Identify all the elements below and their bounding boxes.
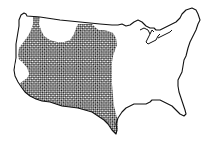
map-container: Contiguous United States — shaded range … xyxy=(0,0,212,144)
us-range-map xyxy=(0,0,212,144)
shaded-range-region xyxy=(18,16,118,134)
